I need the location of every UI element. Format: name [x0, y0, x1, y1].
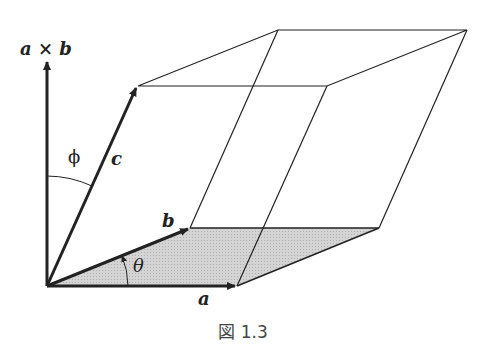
top-face [138, 30, 467, 86]
label-b: b [162, 212, 175, 230]
label-c: c [111, 150, 122, 168]
base-face-shaded [47, 228, 379, 286]
figure-caption: 図 1.3 [0, 318, 486, 343]
label-phi: ϕ [68, 148, 80, 166]
label-a-cross-b: a × b [20, 40, 72, 58]
label-a: a [198, 290, 210, 308]
parallelepiped-diagram [0, 0, 486, 352]
label-theta: θ [133, 257, 144, 275]
phi-angle-arc [47, 176, 92, 186]
